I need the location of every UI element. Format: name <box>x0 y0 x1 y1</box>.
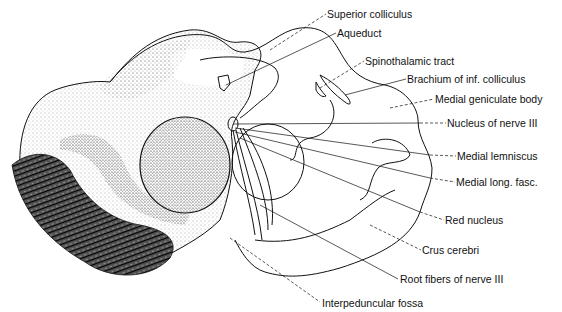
label-medial-geniculate-body: Medial geniculate body <box>435 93 542 105</box>
label-medial-lemniscus: Medial lemniscus <box>457 150 538 162</box>
label-crus-cerebri: Crus cerebri <box>422 244 479 256</box>
label-nucleus-nerve-iii: Nucleus of nerve III <box>447 117 537 129</box>
stippled-left-half <box>12 30 261 275</box>
label-superior-colliculus: Superior colliculus <box>327 8 412 20</box>
label-medial-long-fasc: Medial long. fasc. <box>456 176 538 188</box>
label-aqueduct: Aqueduct <box>337 27 381 39</box>
label-brachium-inf-colliculus: Brachium of inf. colliculus <box>407 73 525 85</box>
midbrain-diagram: Superior colliculus Aqueduct Spinothalam… <box>0 0 562 312</box>
label-spinothalamic-tract: Spinothalamic tract <box>365 55 454 67</box>
label-root-fibers-nerve-iii: Root fibers of nerve III <box>400 273 503 285</box>
label-interpeduncular-fossa: Interpeduncular fossa <box>322 297 423 309</box>
label-red-nucleus: Red nucleus <box>445 214 503 226</box>
